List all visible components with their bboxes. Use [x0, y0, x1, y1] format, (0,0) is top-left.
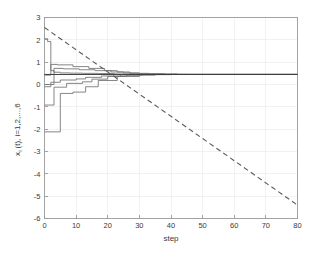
x-tick-label: 20	[104, 221, 112, 230]
y-axis-title-subscript: i	[17, 150, 23, 151]
x-tick-label: 30	[135, 221, 143, 230]
y-tick-label: -6	[34, 214, 41, 223]
x-tick-labels: 01020304050607080	[42, 221, 301, 230]
y-tick-label: -3	[34, 147, 41, 156]
x-tick-label: 60	[230, 221, 238, 230]
x-axis-title: step	[163, 234, 179, 243]
x-tick-label: 50	[198, 221, 206, 230]
grid-lines	[45, 18, 298, 219]
y-tick-label: 0	[36, 80, 40, 89]
y-tick-label: 1	[36, 58, 40, 67]
y-tick-label: -2	[34, 125, 41, 134]
y-axis-title-rest: (t), i=1,2,...,6	[13, 103, 22, 149]
chart-plot: 01020304050607080 3210-1-2-3-4-5-6 step …	[0, 0, 314, 258]
y-tick-labels: 3210-1-2-3-4-5-6	[34, 13, 41, 223]
y-tick-label: -5	[34, 192, 41, 201]
y-tick-label: -1	[34, 103, 41, 112]
x-tick-label: 70	[262, 221, 270, 230]
figure-container: 01020304050607080 3210-1-2-3-4-5-6 step …	[0, 0, 314, 258]
y-tick-label: 3	[36, 13, 40, 22]
x-tick-label: 10	[72, 221, 80, 230]
x-tick-label: 40	[167, 221, 175, 230]
x-tick-label: 0	[42, 221, 46, 230]
y-axis-title-prefix: x	[13, 152, 22, 156]
y-tick-label: -4	[34, 170, 41, 179]
y-tick-label: 2	[36, 36, 40, 45]
y-axis-title: x i (t), i=1,2,...,6	[13, 103, 23, 156]
x-tick-label: 80	[293, 221, 301, 230]
